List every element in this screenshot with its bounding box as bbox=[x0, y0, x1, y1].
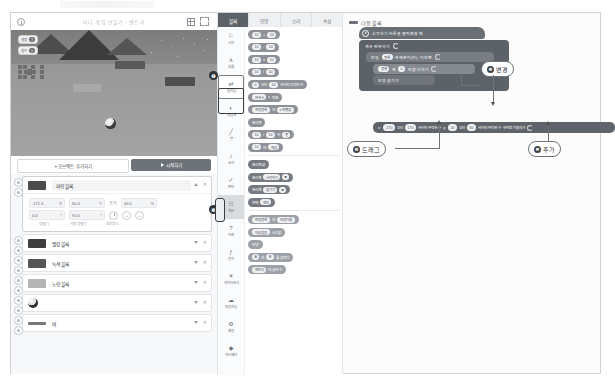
expand-caret-icon[interactable] bbox=[194, 241, 198, 244]
block-toggle[interactable]: ■ bbox=[279, 187, 286, 193]
object-item-selected[interactable]: 파랑 블록 ✕ -171.3 X 60.4 Y 크기 40.0 bbox=[22, 176, 212, 232]
delete-object-icon[interactable]: ✕ bbox=[203, 182, 207, 187]
y-to-input[interactable]: 60 bbox=[467, 124, 476, 131]
object-row[interactable]: 파랑 블록 ✕ bbox=[23, 177, 211, 193]
palette-block[interactable]: 엔트리 의 글자 수 bbox=[248, 265, 286, 274]
rotation-none-icon[interactable]: ↔ bbox=[135, 211, 144, 220]
delete-object-icon[interactable]: ✕ bbox=[203, 260, 207, 265]
category-start[interactable]: ⚐ 시작 bbox=[218, 27, 244, 51]
object-visibility-icons[interactable] bbox=[14, 256, 22, 276]
block-operand[interactable]: 10 bbox=[252, 144, 261, 150]
category-hardware[interactable]: ◆ 하드웨어 bbox=[218, 339, 244, 363]
tab-sounds[interactable]: 소리 bbox=[281, 13, 312, 27]
category-brush[interactable]: ╱ 붓 bbox=[218, 123, 244, 147]
block-dropdown[interactable]: 몫 bbox=[282, 132, 290, 138]
category-sound[interactable]: ♪ 소리 bbox=[218, 147, 244, 171]
object-visibility-icons[interactable] bbox=[14, 236, 22, 256]
palette-block[interactable]: 초시계 시작하기 ■ bbox=[248, 173, 293, 182]
palette-block[interactable]: 10 x 10 bbox=[248, 55, 280, 64]
block-operand[interactable]: 10 bbox=[252, 69, 261, 75]
palette-block[interactable]: 10 + 10 bbox=[248, 30, 280, 39]
block-operand[interactable]: 10 bbox=[267, 57, 276, 63]
palette-block[interactable]: 초시계 값 bbox=[248, 160, 269, 169]
ball-object[interactable] bbox=[105, 118, 116, 129]
variable-dropdown[interactable]: 블록 bbox=[378, 66, 389, 72]
category-judge[interactable]: ✓ 판단 bbox=[218, 171, 244, 195]
block-operand[interactable]: 10 bbox=[267, 32, 276, 38]
tab-blocks[interactable]: 블록 bbox=[218, 13, 249, 27]
object-visibility-icons[interactable] bbox=[14, 276, 22, 296]
delete-object-icon[interactable]: ✕ bbox=[203, 300, 207, 305]
list-item[interactable]: 공 ✕ bbox=[22, 294, 212, 312]
object-list[interactable]: 파랑 블록 ✕ -171.3 X 60.4 Y 크기 40.0 bbox=[11, 174, 217, 374]
block-operand[interactable]: A bbox=[252, 254, 259, 260]
tab-shapes[interactable]: 모양 bbox=[249, 13, 280, 27]
hat-block-when-start-clicked[interactable]: 시작하기 버튼을 클릭했을 때 bbox=[359, 27, 485, 39]
start-button[interactable]: 시작하기 bbox=[131, 159, 211, 171]
rotation-free-icon[interactable] bbox=[109, 211, 118, 220]
block-dropdown[interactable]: 파랑 블록 bbox=[252, 217, 270, 223]
block-operand[interactable]: 10 bbox=[252, 44, 261, 50]
tab-properties[interactable]: 속성 bbox=[312, 13, 343, 27]
collapse-caret-icon[interactable] bbox=[194, 183, 198, 186]
block-dropdown[interactable]: 대상 없음 bbox=[252, 229, 270, 235]
expand-caret-icon[interactable] bbox=[194, 321, 198, 324]
list-item[interactable]: 바 ✕ bbox=[22, 314, 212, 332]
x-to-input[interactable]: 170 bbox=[405, 124, 416, 131]
list-item[interactable]: 녹색 블록 ✕ bbox=[22, 254, 212, 272]
block-dropdown[interactable]: 시작하기 bbox=[263, 174, 280, 180]
brick-object[interactable] bbox=[73, 84, 101, 92]
block-dropdown[interactable]: 파랑 블록 bbox=[252, 107, 270, 113]
x-from-input[interactable]: -170 bbox=[383, 124, 395, 131]
if-block[interactable]: 만일 블록 복제본이(가) 이라면 bbox=[366, 52, 494, 62]
move-to-random-position-block[interactable]: x: -170 부터 170 사이의 무작위 수 y: 20 부터 60 사이의… bbox=[373, 122, 615, 133]
object-row[interactable]: 빨강 블록 ✕ bbox=[23, 235, 211, 251]
category-data[interactable]: ? 자료 bbox=[218, 219, 244, 243]
delete-object-icon[interactable]: ✕ bbox=[203, 280, 207, 285]
delete-object-icon[interactable]: ✕ bbox=[203, 320, 207, 325]
block-operand[interactable]: 10 bbox=[269, 82, 278, 88]
brick-object[interactable] bbox=[115, 61, 145, 69]
palette-block[interactable]: A 와 B 를 합치기 bbox=[248, 253, 293, 262]
palette-block[interactable]: 초시계 bbox=[248, 118, 265, 127]
block-operand[interactable]: 0 bbox=[252, 82, 259, 88]
block-operand[interactable]: 10 bbox=[266, 69, 275, 75]
script-stack[interactable]: 시작하기 버튼을 클릭했을 때 계속 반복하기 만일 블록 복제본이(가) 이라… bbox=[359, 27, 577, 91]
code-workspace[interactable]: 다음 블록 시작하기 버튼을 클릭했을 때 계속 반복하기 만일 블록 복제본이… bbox=[342, 13, 600, 373]
brick-object[interactable] bbox=[165, 77, 195, 86]
move-direction-field[interactable]: 90.0 ° bbox=[69, 210, 105, 220]
category-function[interactable]: ƒ 함수 bbox=[218, 243, 244, 267]
block-operand[interactable]: 10 bbox=[252, 132, 261, 138]
grid-icon[interactable] bbox=[187, 18, 195, 26]
object-visibility-icons[interactable] bbox=[14, 296, 22, 316]
object-row[interactable]: 녹색 블록 ✕ bbox=[23, 255, 211, 271]
block-dropdown[interactable]: 마우스 bbox=[252, 94, 266, 100]
palette-block[interactable]: 10 / 10 bbox=[248, 68, 279, 77]
if-dropdown[interactable]: 블록 bbox=[382, 54, 393, 60]
block-operand[interactable]: 10 bbox=[266, 44, 275, 50]
block-dropdown[interactable]: 숨기기 bbox=[263, 187, 277, 193]
category-flow[interactable]: ∧ 흐름 bbox=[218, 51, 244, 75]
hide-shape-block[interactable]: 모양 숨기기 bbox=[373, 75, 435, 85]
palette-block[interactable]: 파랑 블록 의 모양 이름 bbox=[248, 215, 299, 224]
object-visibility-icons[interactable] bbox=[14, 316, 22, 336]
size-field[interactable]: 40.0 % bbox=[121, 198, 157, 208]
palette-block[interactable]: 현재 연도 bbox=[248, 198, 275, 207]
block-dropdown[interactable]: x 좌푯값 bbox=[277, 107, 294, 113]
y-from-input[interactable]: 20 bbox=[448, 124, 457, 131]
block-operand[interactable]: B bbox=[266, 254, 273, 260]
direction-field[interactable]: 0.0 ° bbox=[29, 210, 65, 220]
block-dropdown[interactable]: 모양 이름 bbox=[277, 217, 295, 223]
fullscreen-icon[interactable] bbox=[200, 17, 209, 26]
expand-caret-icon[interactable] bbox=[194, 301, 198, 304]
expand-caret-icon[interactable] bbox=[194, 281, 198, 284]
palette-block[interactable]: 마우스 x 좌표 bbox=[248, 93, 282, 102]
object-row[interactable]: 노랑 블록 ✕ bbox=[23, 275, 211, 291]
block-operand[interactable]: 10 bbox=[252, 32, 261, 38]
block-operand[interactable]: 엔트리 bbox=[252, 267, 266, 273]
palette-block-list[interactable]: 10 + 10 10 - 10 10 x 10 10 / 10 0 부터 10 … bbox=[244, 27, 343, 378]
stage-canvas[interactable]: 생명 3 점수 0 bbox=[11, 30, 217, 156]
palette-block[interactable]: 10 - 10 bbox=[248, 43, 279, 52]
list-item[interactable]: 빨강 블록 ✕ bbox=[22, 234, 212, 252]
category-extension[interactable]: ⚙ 확장 bbox=[218, 315, 244, 339]
